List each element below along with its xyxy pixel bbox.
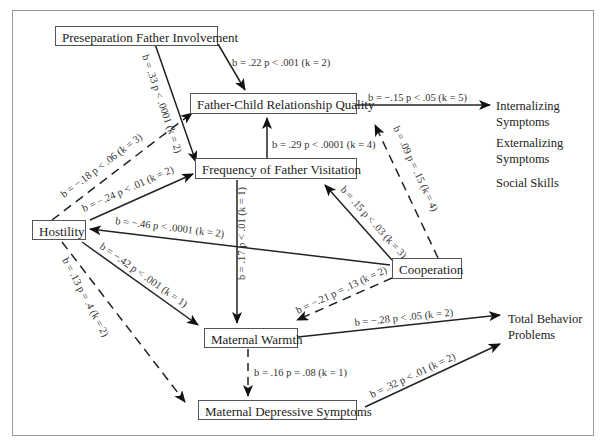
edge-dep-total <box>365 344 500 407</box>
node-maternal-warmth: Maternal Warmth <box>204 328 298 348</box>
label-host-warm: b = −.42 p < .001 (k = 1) <box>97 241 190 311</box>
outcome-internalizing-line1: Internalizing <box>496 98 560 114</box>
node-preseparation-father-involvement: Preseparation Father Involvement <box>55 26 218 46</box>
outcome-total-line1: Total Behavior <box>508 311 582 327</box>
label-host-dep: b = .13 p = .4 (k = 2) <box>59 256 111 340</box>
outcome-total-behavior-problems: Total Behavior Problems <box>508 311 582 343</box>
label-pre-vis: b = .33 p < .0001 (k = 2) <box>139 53 184 155</box>
outcome-social-skills: Social Skills <box>496 175 559 191</box>
label-coop-warm: b = −.21 p = .13 (k = 2) <box>294 264 389 317</box>
node-cooperation: Cooperation <box>392 258 462 279</box>
outcome-total-line2: Problems <box>508 327 582 343</box>
node-father-child-relationship-quality: Father-Child Relationship Quality <box>190 93 357 114</box>
outcome-internalizing-symptoms: Internalizing Symptoms <box>496 98 560 130</box>
node-maternal-depressive-symptoms: Maternal Depressive Symptoms <box>198 400 357 420</box>
outcome-internalizing-line2: Symptoms <box>496 114 560 130</box>
path-diagram: b = .22 p < .001 (k = 2) b = .33 p < .00… <box>0 0 604 448</box>
label-vis-warm: b = .17 p < .01 (k = 1) <box>236 186 248 280</box>
label-fcrq-int: b = −.15 p < .05 (k = 5) <box>368 92 467 104</box>
label-pre-fcrq: b = .22 p < .001 (k = 2) <box>232 57 331 69</box>
label-warm-dep: b = .16 p = .08 (k = 1) <box>254 367 348 379</box>
label-vis-fcrq: b = .29 p < .0001 (k = 4) <box>272 139 376 151</box>
outcome-externalizing-symptoms: Externalizing Symptoms <box>496 135 563 167</box>
outcome-externalizing-line2: Symptoms <box>496 151 563 167</box>
label-coop-host: b = −.46 p < .0001 (k = 2) <box>115 215 226 240</box>
label-dep-total: b = .32 p < .01 (k = 2) <box>368 350 458 400</box>
node-hostility: Hostility <box>32 220 86 240</box>
node-frequency-of-father-visitation: Frequency of Father Visitation <box>195 158 357 179</box>
label-coop-vis: b = .15 p < .03 (k = 3) <box>338 184 409 262</box>
outcome-externalizing-line1: Externalizing <box>496 135 563 151</box>
label-coop-fcrq: b = .09 p = .15 (k = 4) <box>390 124 440 214</box>
